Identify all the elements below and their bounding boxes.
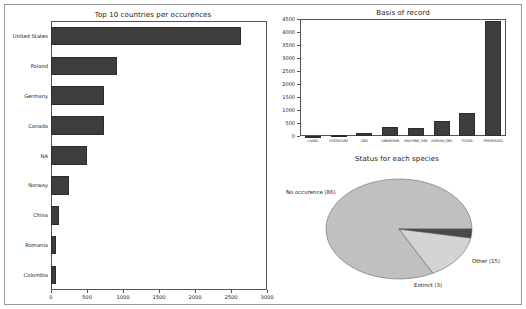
x-tick-label-machine-obs: MACHINE_OBS: [404, 139, 427, 143]
chart-title-top-countries: Top 10 countries per occurences: [45, 11, 261, 19]
bar-norway: [51, 176, 69, 195]
bar-colombia: [51, 266, 56, 285]
x-tick-label: 1000: [116, 294, 129, 300]
figure-canvas: Top 10 countries per occurences United S…: [0, 0, 526, 309]
pie-label-no-occurence-86-: No occurence (86): [286, 189, 336, 195]
y-tick-label: 0: [272, 133, 295, 139]
x-tick-label-preserved: PRESERVED: [484, 139, 503, 143]
x-tick-mark: [159, 290, 160, 293]
x-tick-label-obs: OBS: [361, 139, 368, 143]
chart-title-basis-of-record: Basis of record: [300, 9, 506, 17]
x-tick-label-living: LIVING: [307, 139, 318, 143]
category-label-colombia: Colombia: [24, 272, 48, 278]
x-tick-mark: [231, 290, 232, 293]
bar-preserved: [485, 21, 501, 136]
y-tick-label: 500: [272, 120, 295, 126]
y-tick-mark: [297, 58, 300, 59]
category-label-united-states: United States: [13, 33, 48, 39]
x-tick-label: 500: [82, 294, 92, 300]
pie-label-extinct-3-: Extinct (3): [414, 282, 442, 288]
y-tick-mark: [297, 32, 300, 33]
category-label-na: NA: [41, 153, 48, 159]
y-tick-mark: [297, 136, 300, 137]
x-tick-label: 2000: [188, 294, 201, 300]
chart-top-countries: Top 10 countries per occurences United S…: [5, 5, 270, 304]
bar-romania: [51, 236, 56, 255]
bar-germany: [51, 86, 104, 105]
x-tick-mark: [195, 290, 196, 293]
bar-china: [51, 206, 59, 225]
y-tick-mark: [297, 123, 300, 124]
bar-unknown: [382, 127, 398, 136]
x-tick-label-unknown: UNKNOWN: [381, 139, 399, 143]
x-tick-label-fossil: FOSSIL: [462, 139, 473, 143]
x-tick-label-literature: LITERATURE: [329, 139, 348, 143]
y-tick-mark: [297, 71, 300, 72]
x-tick-mark: [51, 290, 52, 293]
category-label-norway: Norway: [28, 182, 48, 188]
x-tick-label: 0: [49, 294, 52, 300]
bar-obs: [356, 133, 372, 136]
bar-literature: [331, 135, 347, 137]
x-tick-label: 1500: [152, 294, 165, 300]
bar-living: [305, 136, 321, 138]
y-tick-label: 4000: [272, 29, 295, 35]
x-tick-mark: [267, 290, 268, 293]
x-tick-label-human-obs: HUMAN_OBS: [431, 139, 452, 143]
chart-title-status-pie: Status for each species: [272, 155, 522, 163]
y-tick-mark: [297, 97, 300, 98]
category-label-canada: Canada: [28, 123, 48, 129]
category-label-china: China: [33, 212, 48, 218]
y-tick-mark: [297, 84, 300, 85]
x-tick-mark: [123, 290, 124, 293]
x-tick-mark: [87, 290, 88, 293]
y-tick-label: 3500: [272, 42, 295, 48]
x-tick-label: 2500: [224, 294, 237, 300]
bar-machine-obs: [408, 128, 424, 136]
y-tick-label: 4500: [272, 16, 295, 22]
bar-united-states: [51, 27, 241, 46]
y-tick-mark: [297, 19, 300, 20]
chart-basis-of-record: Basis of record 050010001500200025003000…: [272, 5, 522, 153]
category-label-poland: Poland: [31, 63, 48, 69]
y-tick-label: 1000: [272, 107, 295, 113]
y-tick-label: 1500: [272, 94, 295, 100]
category-label-romania: Romania: [25, 242, 48, 248]
category-label-germany: Germany: [24, 93, 48, 99]
y-tick-mark: [297, 110, 300, 111]
y-tick-mark: [297, 45, 300, 46]
pie-graphic: [324, 177, 474, 281]
pie-label-other-15-: Other (15): [472, 258, 500, 264]
pie-svg: [324, 177, 474, 281]
bar-fossil: [459, 113, 475, 136]
chart-status-pie: Status for each species No occurence (86…: [272, 153, 522, 304]
bar-poland: [51, 57, 117, 76]
y-tick-label: 2000: [272, 81, 295, 87]
y-tick-label: 3000: [272, 55, 295, 61]
bar-canada: [51, 116, 104, 135]
bar-na: [51, 146, 87, 165]
bar-human-obs: [434, 121, 450, 136]
y-tick-label: 2500: [272, 68, 295, 74]
